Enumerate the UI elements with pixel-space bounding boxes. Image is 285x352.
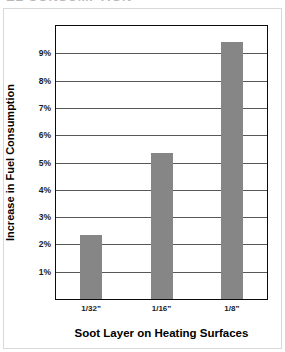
x-axis-tick-label: 1/32” bbox=[81, 304, 101, 313]
y-axis-tick-label: 4% bbox=[39, 185, 51, 195]
y-axis-title: Increase in Fuel Consumption bbox=[4, 25, 16, 300]
y-axis-tick-label: 6% bbox=[39, 130, 51, 140]
y-axis-tick-label: 9% bbox=[39, 48, 51, 58]
x-axis-tick-label: 1/8” bbox=[224, 304, 239, 313]
y-axis-tick-label: 5% bbox=[39, 158, 51, 168]
x-axis-tick-label: 1/16” bbox=[152, 304, 172, 313]
header-text-glyphs: EL CONSUMPTION bbox=[6, 0, 132, 4]
x-axis-title: Soot Layer on Heating Surfaces bbox=[55, 327, 268, 339]
y-axis-tick-label: 8% bbox=[39, 76, 51, 86]
bar bbox=[80, 235, 102, 299]
y-axis-tick-label: 1% bbox=[39, 267, 51, 277]
bar bbox=[221, 42, 243, 299]
y-axis-tick-label: 2% bbox=[39, 239, 51, 249]
cropped-header-text: EL CONSUMPTION bbox=[0, 0, 285, 6]
y-axis-tick-label: 3% bbox=[39, 212, 51, 222]
bar bbox=[151, 153, 173, 299]
plot-area: 9%8%7%6%5%4%3%2%1%1/32”1/16”1/8” bbox=[55, 25, 268, 300]
y-axis-tick-label: 7% bbox=[39, 103, 51, 113]
chart-page: EL CONSUMPTION Increase in Fuel Consumpt… bbox=[0, 0, 285, 352]
